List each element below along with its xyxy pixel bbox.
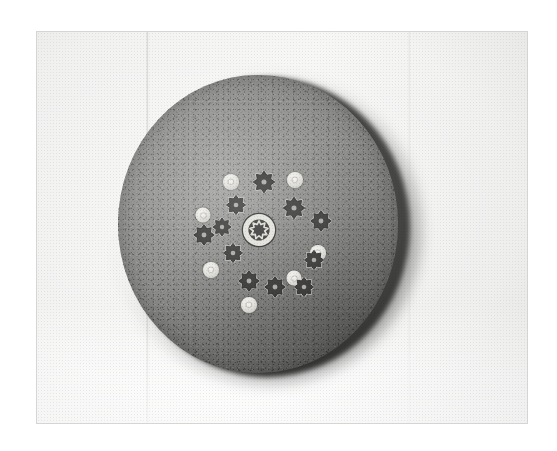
screenshot-root: [0, 0, 557, 451]
photograph: [36, 31, 528, 424]
photo-vignette: [36, 31, 528, 424]
